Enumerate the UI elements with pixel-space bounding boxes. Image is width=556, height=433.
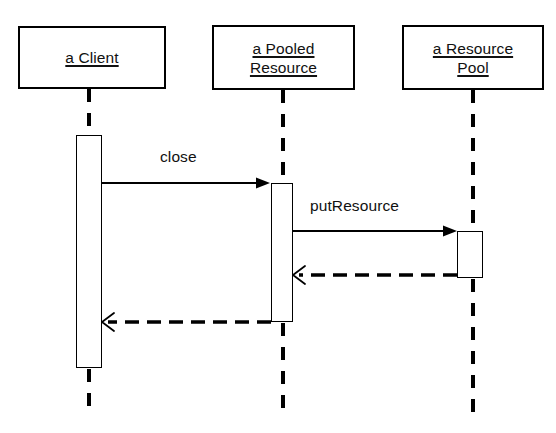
participant-label-resource-pool-line-1: a Resource [433, 39, 513, 58]
activation-bar-pooled-resource [271, 183, 293, 322]
participant-box-client[interactable]: a Client [18, 26, 166, 89]
participant-label-pooled-resource-line-2: Resource [250, 58, 317, 77]
participant-label-client: a Client [65, 48, 118, 67]
message-putresource-arrow [293, 226, 457, 237]
activation-bar-resource-pool [457, 231, 483, 278]
message-return-pooled-resource-arrow [102, 313, 271, 331]
message-close-arrow [102, 178, 270, 189]
participant-label-pooled-resource-line-1: a Pooled [250, 39, 317, 58]
message-putresource-arrowhead [443, 226, 457, 237]
activation-bar-client [76, 135, 102, 368]
participant-label-resource-pool-line-2: Pool [433, 58, 513, 77]
message-return-resource-pool-arrow [293, 266, 457, 284]
participant-box-pooled-resource[interactable]: a Pooled Resource [212, 25, 355, 90]
participant-label-resource-pool: a Resource Pool [433, 39, 513, 77]
message-label-close: close [160, 147, 197, 166]
participant-box-resource-pool[interactable]: a Resource Pool [402, 25, 544, 90]
participant-label-client-line-1: a Client [65, 48, 118, 67]
participant-label-pooled-resource: a Pooled Resource [250, 39, 317, 77]
message-close-arrowhead [256, 178, 270, 189]
sequence-diagram-canvas: a Client a Pooled Resource a Resource Po… [0, 0, 556, 433]
message-label-putresource: putResource [310, 196, 399, 215]
